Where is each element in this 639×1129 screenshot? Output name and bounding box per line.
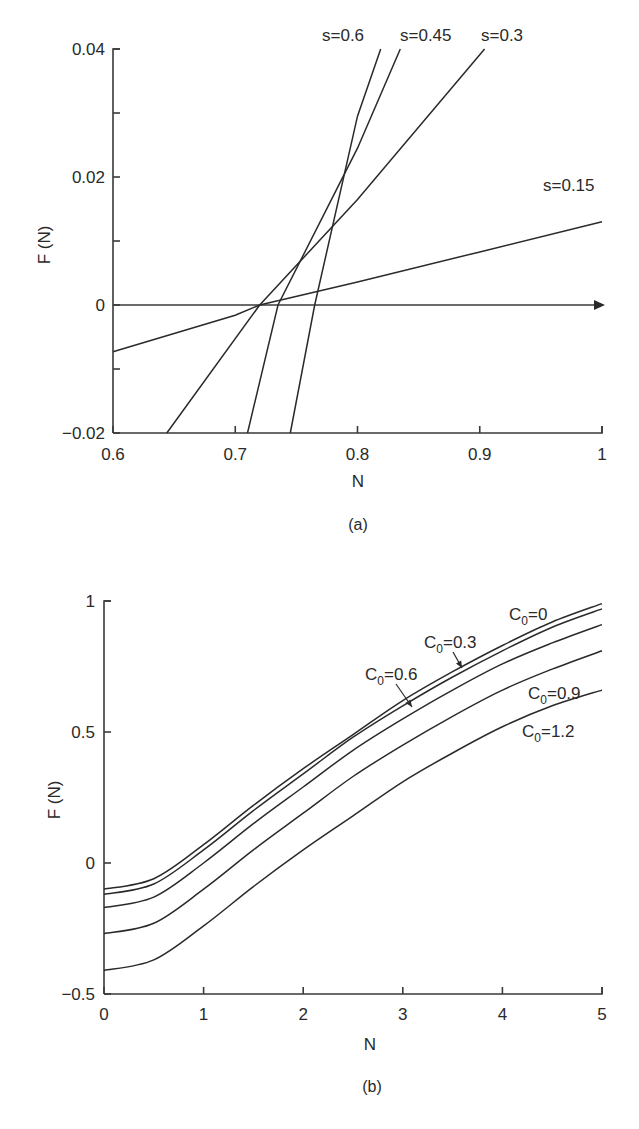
chart-a-caption: (a) [348,516,368,533]
y-tick-label: 0.5 [71,723,95,742]
series-label: C0=0 [509,605,547,628]
y-tick-label: 0 [86,854,95,873]
x-tick-label: 0 [99,1005,108,1024]
series-line-s-0-3 [167,49,485,433]
chart-b: −0.500.51 012345 C0=0C0=0.3C0=0.6C0=0.9C… [0,560,639,1129]
x-tick-label: 0.7 [223,445,247,464]
series-label: C0=0.3 [424,633,477,656]
series-curve-C0-0 [104,604,602,890]
series-line-s-0-15 [113,222,602,352]
y-tick-label: −0.5 [61,985,95,1004]
chart-b-xaxis: 012345 [99,987,606,1024]
chart-b-caption: (b) [362,1078,382,1095]
series-label: C0=1.2 [522,722,575,745]
x-tick-label: 5 [597,1005,606,1024]
x-tick-label: 0.9 [468,445,492,464]
series-line-s-0-45 [248,49,401,433]
x-tick-label: 1 [199,1005,208,1024]
y-tick-label: 1 [86,592,95,611]
arrow-right-icon [594,300,605,310]
chart-b-labels: C0=0C0=0.3C0=0.6C0=0.9C0=1.2 [365,605,581,745]
x-tick-label: 3 [398,1005,407,1024]
y-axis-line [104,601,111,994]
series-line-s-0-6 [290,49,380,433]
chart-a-xaxis: 0.60.70.80.91 [101,300,607,464]
x-tick-label: 4 [498,1005,507,1024]
chart-b-ylabel: F (N) [45,781,64,820]
series-label: s=0.6 [322,26,364,45]
y-tick-label: −0.02 [62,424,105,443]
series-label: C0=0.6 [365,665,418,688]
chart-b-series [104,604,602,971]
y-tick-label: 0 [96,296,105,315]
chart-a-series [113,49,602,433]
x-tick-label: 0.6 [101,445,125,464]
series-label: s=0.15 [543,176,595,195]
chart-b-yaxis: −0.500.51 [61,592,111,1004]
series-label: s=0.3 [481,26,523,45]
chart-a: −0.0200.020.04 0.60.70.80.91 s=0.15s=0.3… [0,0,639,560]
chart-b-xlabel: N [364,1035,376,1054]
x-tick-label: 0.8 [346,445,370,464]
series-label: s=0.45 [400,26,452,45]
x-tick-label: 1 [597,445,606,464]
series-curve-C0-0-6 [104,625,602,908]
chart-a-xlabel: N [352,472,364,491]
x-tick-label: 2 [298,1005,307,1024]
chart-a-ylabel: F (N) [35,226,54,265]
chart-a-yaxis: −0.0200.020.04 [62,40,120,443]
series-label: C0=0.9 [528,684,581,707]
y-tick-label: 0.04 [72,40,105,59]
x-axis-line [104,987,602,994]
series-curve-C0-0-3 [104,609,602,895]
y-tick-label: 0.02 [72,168,105,187]
chart-a-labels: s=0.15s=0.3s=0.45s=0.6 [322,26,595,195]
